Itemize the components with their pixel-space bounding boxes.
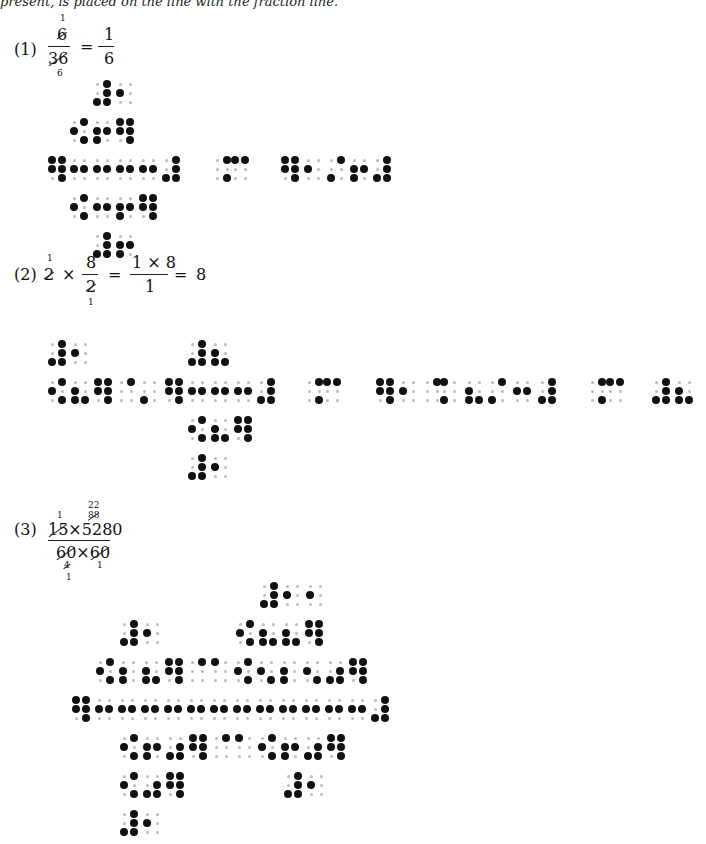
- braille-dot: [106, 159, 109, 162]
- braille-dot: [306, 661, 309, 664]
- braille-dot: [191, 343, 194, 346]
- braille-dot: [259, 629, 267, 637]
- braille-cell: [257, 658, 277, 684]
- braille-cell: [304, 734, 324, 760]
- braille-dot: [156, 755, 159, 758]
- braille-dot: [526, 399, 529, 402]
- equals-sign: =: [174, 265, 187, 284]
- braille-dot: [609, 390, 612, 393]
- braille-dot: [122, 661, 125, 664]
- braille-dot: [143, 819, 151, 827]
- braille-dot: [153, 399, 156, 402]
- braille-dot: [98, 717, 101, 720]
- braille-cell: [306, 582, 326, 608]
- braille-dot: [214, 475, 217, 478]
- braille-cell: [93, 118, 113, 144]
- braille-dot: [478, 381, 481, 384]
- braille-dot: [358, 705, 366, 713]
- braille-dot: [361, 699, 364, 702]
- braille-dot: [119, 101, 122, 104]
- braille-dot: [353, 159, 356, 162]
- braille-dot: [284, 790, 292, 798]
- braille-cell: [48, 156, 68, 182]
- braille-dot: [359, 658, 367, 666]
- braille-dot: [224, 343, 227, 346]
- braille-cell: [93, 194, 113, 220]
- braille-cell: [189, 734, 209, 760]
- braille-dot: [235, 734, 243, 742]
- braille-dot: [166, 781, 174, 789]
- braille-dot: [73, 215, 76, 218]
- braille-dot: [96, 244, 99, 247]
- braille-dot: [190, 699, 193, 702]
- example-label: (1): [14, 40, 37, 59]
- braille-dot: [83, 130, 86, 133]
- braille-cell: [304, 156, 324, 182]
- braille-dot: [73, 121, 76, 124]
- braille-dot: [48, 156, 56, 164]
- braille-dot: [241, 156, 249, 164]
- braille-dot: [282, 717, 285, 720]
- braille-cell: [376, 378, 396, 404]
- braille-dot: [61, 390, 64, 393]
- braille-dot: [142, 159, 145, 162]
- braille-dot: [162, 174, 170, 182]
- braille-dot: [132, 679, 135, 682]
- braille-cell: [303, 658, 323, 684]
- braille-cell: [211, 658, 231, 684]
- braille-dot: [146, 623, 149, 626]
- braille-dot: [198, 387, 206, 395]
- braille-dot: [140, 396, 148, 404]
- braille-dot: [335, 705, 343, 713]
- braille-dot: [386, 396, 394, 404]
- braille-dot: [143, 390, 146, 393]
- braille-dot: [120, 390, 123, 393]
- braille-dot: [93, 165, 101, 173]
- braille-dot: [548, 387, 556, 395]
- braille-cell: [231, 156, 251, 182]
- braille-dot: [142, 177, 145, 180]
- braille-dot: [436, 399, 439, 402]
- braille-cell: [652, 378, 672, 404]
- braille-dot: [296, 585, 299, 588]
- braille-dot: [330, 168, 333, 171]
- cancel-value: 22: [88, 500, 99, 510]
- braille-dot: [308, 381, 311, 384]
- braille-dot: [103, 98, 111, 106]
- braille-cell: [327, 734, 347, 760]
- braille-dot: [247, 381, 250, 384]
- braille-dot: [224, 661, 227, 664]
- braille-dot: [292, 699, 295, 702]
- braille-dot: [84, 381, 87, 384]
- braille-dot: [214, 381, 217, 384]
- braille-dot: [99, 679, 102, 682]
- braille-cell: [279, 696, 299, 722]
- braille-dot: [412, 390, 415, 393]
- braille-dot: [350, 174, 358, 182]
- braille-cell: [302, 696, 322, 722]
- braille-dot: [146, 813, 149, 816]
- braille-dot: [191, 457, 194, 460]
- braille-dot: [130, 752, 138, 760]
- braille-dot: [191, 670, 194, 673]
- braille-dot: [260, 661, 263, 664]
- braille-dot: [165, 667, 173, 675]
- braille-dot: [259, 717, 262, 720]
- braille-dot: [294, 737, 297, 740]
- braille-cell: [188, 454, 208, 480]
- braille-dot: [310, 793, 313, 796]
- braille-dot: [248, 746, 251, 749]
- braille-dot: [104, 396, 112, 404]
- braille-dot: [244, 434, 252, 442]
- braille-dot: [383, 165, 391, 173]
- braille-dot: [120, 781, 128, 789]
- braille-dot: [266, 705, 274, 713]
- braille-dot: [319, 585, 322, 588]
- braille-dot: [198, 349, 206, 357]
- braille-dot: [82, 714, 90, 722]
- braille-dot: [130, 810, 138, 818]
- braille-dot: [71, 396, 79, 404]
- braille-dot: [606, 378, 614, 386]
- braille-dot: [309, 585, 312, 588]
- braille-cell: [281, 156, 301, 182]
